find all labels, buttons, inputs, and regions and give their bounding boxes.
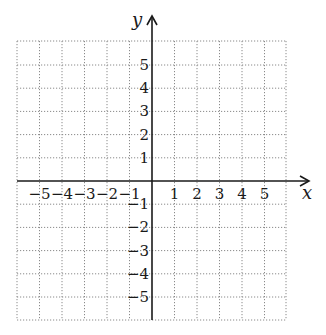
y-tick-label: 2: [139, 126, 149, 144]
y-tick-label: −2: [127, 218, 149, 236]
x-tick-label: 3: [215, 185, 225, 203]
y-axis-label: y: [131, 9, 143, 30]
x-tick-label: −3: [73, 185, 95, 203]
y-tick-label: −3: [127, 242, 149, 260]
x-tick-label: −4: [51, 185, 73, 203]
x-tick-label: −2: [96, 185, 118, 203]
coordinate-plane: x y −5−4−3−2−112345 54321−1−2−3−4−5: [0, 0, 326, 335]
y-tick-label: 4: [139, 79, 149, 97]
x-axis-label: x: [302, 182, 312, 203]
x-tick-label: 2: [192, 185, 202, 203]
y-tick-label: 5: [139, 56, 149, 74]
y-tick-label: −1: [127, 195, 149, 213]
y-tick-label: 3: [139, 102, 149, 120]
y-tick-label: −5: [127, 288, 149, 306]
x-tick-label: 5: [260, 185, 270, 203]
y-tick-label: −4: [127, 265, 149, 283]
x-tick-label: 4: [237, 185, 247, 203]
x-tick-label: 1: [170, 185, 180, 203]
x-tick-label: −5: [28, 185, 50, 203]
y-tick-label: 1: [139, 149, 149, 167]
